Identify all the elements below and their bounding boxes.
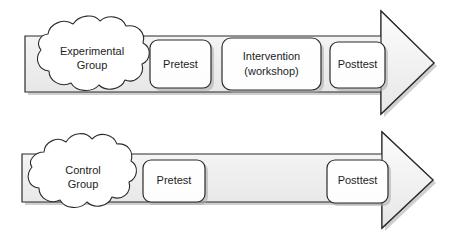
experimental-group-row: Experimental Group Pretest Intervention … [25,11,437,117]
stage-label-intervention-line2: (workshop) [244,65,298,77]
stage-label-posttest: Posttest [338,174,378,186]
experimental-group-cloud: Experimental Group [38,16,150,90]
stage-label-pretest: Pretest [157,174,192,186]
research-design-diagram: Experimental Group Pretest Intervention … [0,0,457,238]
control-group-label-line1: Control [65,164,100,176]
stage-label-pretest: Pretest [163,58,198,70]
control-stage-posttest[interactable]: Posttest [327,160,391,206]
experimental-stage-pretest[interactable]: Pretest [150,40,214,91]
control-stage-pretest[interactable]: Pretest [143,160,208,205]
control-group-row: Control Group Pretest Posttest [22,132,436,231]
control-group-label-line2: Group [68,178,99,190]
experimental-arrow-head [381,11,434,114]
experimental-group-label-line1: Experimental [60,45,124,57]
diagram-canvas: Experimental Group Pretest Intervention … [0,0,457,238]
experimental-group-label-line2: Group [77,59,108,71]
control-group-cloud: Control Group [28,134,136,208]
experimental-stage-intervention[interactable]: Intervention (workshop) [222,38,324,93]
stage-label-posttest: Posttest [338,58,378,70]
stage-label-intervention-line1: Intervention [243,50,300,62]
experimental-stage-posttest[interactable]: Posttest [330,42,388,91]
